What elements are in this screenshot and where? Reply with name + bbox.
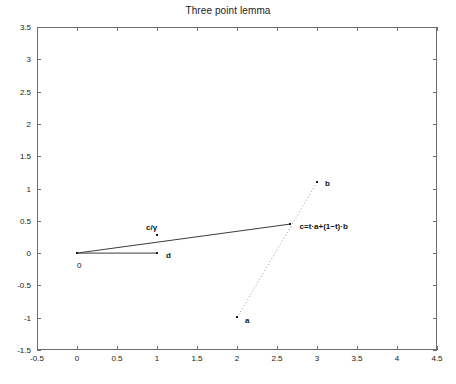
- y-tick-label: 1.5: [20, 152, 31, 161]
- x-tick: [437, 346, 438, 350]
- page-title: Three point lemma: [0, 5, 456, 16]
- y-tick-label: 2.5: [20, 87, 31, 96]
- x-tick-label: 3: [315, 354, 319, 363]
- point-label-d: d: [166, 251, 171, 260]
- x-tick-label: 2.5: [271, 354, 282, 363]
- data-point-c: [289, 223, 292, 226]
- y-tick: [433, 350, 437, 351]
- y-tick-label: -1: [24, 313, 31, 322]
- x-tick-label: 1: [155, 354, 159, 363]
- point-label-origin: 0: [77, 261, 81, 270]
- data-point-a: [236, 316, 239, 319]
- y-tick: [37, 350, 41, 351]
- point-label-c: c=t·a+(1−t)·b: [300, 222, 348, 231]
- y-tick-label: 1: [27, 184, 31, 193]
- data-point-b: [316, 181, 319, 184]
- x-tick-label: 4.5: [431, 354, 442, 363]
- data-point-c-over-gamma: [156, 234, 159, 237]
- x-tick-label: 0: [75, 354, 79, 363]
- y-tick-label: 3.5: [20, 23, 31, 32]
- figure-canvas: Three point lemma 0dabc=t·a+(1−t)·bc/γ -…: [0, 0, 456, 384]
- point-label-c-over-gamma: c/γ: [146, 223, 157, 232]
- data-point-d: [156, 252, 159, 255]
- data-series-layer: [37, 27, 437, 350]
- x-tick-label: 4: [395, 354, 399, 363]
- segment-origin-to-c: [77, 224, 291, 253]
- x-tick-label: 2: [235, 354, 239, 363]
- y-tick-label: 3: [27, 55, 31, 64]
- y-tick-label: 2: [27, 119, 31, 128]
- y-tick-label: -0.5: [17, 281, 31, 290]
- data-point-origin: [76, 252, 79, 255]
- plot-area: 0dabc=t·a+(1−t)·bc/γ: [37, 27, 437, 350]
- y-tick-label: 0.5: [20, 216, 31, 225]
- point-label-b: b: [325, 179, 330, 188]
- x-tick-label: 0.5: [111, 354, 122, 363]
- x-tick-label: 3.5: [351, 354, 362, 363]
- segment-a-to-b: [237, 182, 317, 318]
- y-tick-label: 0: [27, 249, 31, 258]
- x-tick: [437, 27, 438, 31]
- x-tick-label: -0.5: [30, 354, 44, 363]
- y-tick-label: -1.5: [17, 346, 31, 355]
- x-tick-label: 1.5: [191, 354, 202, 363]
- point-label-a: a: [245, 316, 249, 325]
